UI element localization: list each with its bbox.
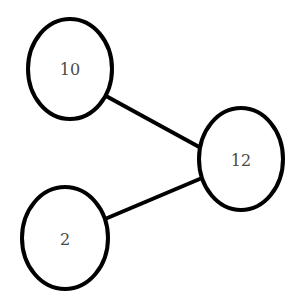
node-10-label: 10 <box>60 60 80 79</box>
node-12: 12 <box>199 108 283 210</box>
edge-12-to-10 <box>106 96 201 148</box>
node-2: 2 <box>22 187 108 289</box>
node-12-label: 12 <box>231 151 251 170</box>
tree-diagram: 10 12 2 <box>0 0 296 305</box>
node-2-label: 2 <box>60 230 70 249</box>
edges <box>105 96 202 219</box>
nodes: 10 12 2 <box>22 19 283 289</box>
node-10: 10 <box>28 19 112 119</box>
edge-12-to-2 <box>105 178 202 219</box>
